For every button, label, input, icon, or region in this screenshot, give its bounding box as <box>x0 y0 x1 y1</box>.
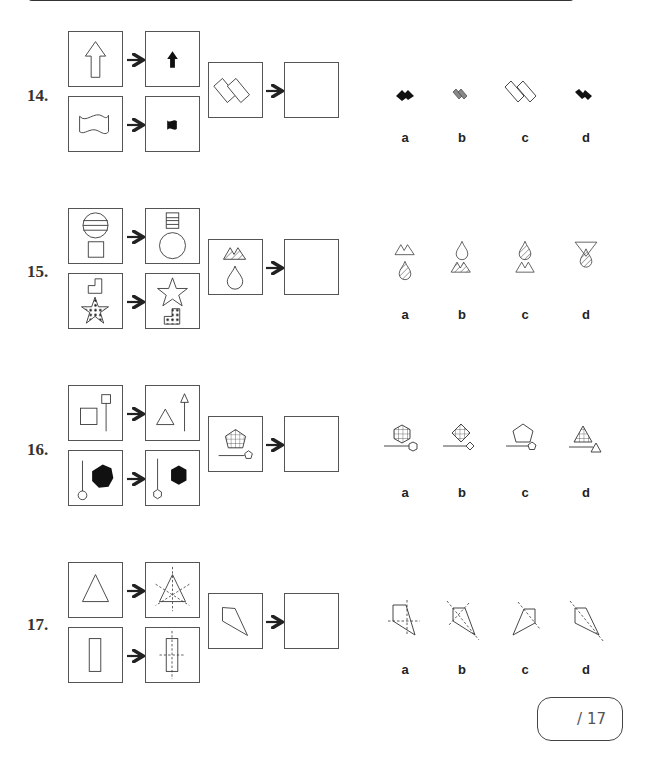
option-d-label[interactable]: d <box>576 485 596 500</box>
star-dotted-lshape-icon <box>146 274 199 328</box>
transform-arrow-icon <box>264 84 284 98</box>
option-a-label[interactable]: a <box>395 307 415 322</box>
option-d-figure[interactable] <box>561 420 611 470</box>
option-b-figure[interactable] <box>437 70 487 120</box>
transform-arrow-icon <box>125 649 145 663</box>
kite-cross-lines-icon <box>380 595 430 645</box>
outline-arrow-up-icon <box>69 32 122 86</box>
black-rectangles-icon <box>380 70 430 120</box>
example-1-from <box>68 562 123 618</box>
answer-box[interactable] <box>284 62 339 118</box>
transform-arrow-icon <box>125 472 145 486</box>
example-1-from <box>68 31 123 87</box>
example-1-to <box>145 562 200 618</box>
triangle-line-triangle-icon <box>146 386 199 440</box>
question-figure <box>208 416 263 472</box>
option-c-label[interactable]: c <box>515 130 535 145</box>
striped-drop-mountains-icon <box>500 238 550 288</box>
question-figure <box>208 593 263 649</box>
option-b-figure[interactable] <box>437 238 487 288</box>
striped-square-circle-icon <box>146 209 199 263</box>
option-b-label[interactable]: b <box>452 307 472 322</box>
example-2-from <box>68 450 123 506</box>
example-2-to <box>145 273 200 329</box>
rectangle-icon <box>69 628 122 682</box>
triangle-striped-drop-icon <box>561 238 611 288</box>
striped-circle-square-icon <box>69 209 122 263</box>
grid-hexagon-line-hexagon-icon <box>380 420 430 470</box>
grid-diamond-line-diamond-icon <box>437 420 487 470</box>
option-c-label[interactable]: c <box>515 485 535 500</box>
grey-rectangles-icon <box>437 70 487 120</box>
transform-arrow-icon <box>264 438 284 452</box>
rotated-kite-diagonal-icon <box>500 595 550 645</box>
striped-mountains-drop-icon <box>209 240 262 294</box>
outline-flag-icon <box>69 97 122 151</box>
overlapping-rectangles-icon <box>209 63 262 117</box>
option-a-figure[interactable] <box>380 420 430 470</box>
option-a-figure[interactable] <box>380 70 430 120</box>
rectangle-symmetry-lines-icon <box>146 628 199 682</box>
kite-diagonal-symmetry-icon <box>561 595 611 645</box>
option-c-figure[interactable] <box>500 420 550 470</box>
transform-arrow-icon <box>125 295 145 309</box>
option-d-figure[interactable] <box>561 238 611 288</box>
example-2-to <box>145 96 200 152</box>
example-2-from <box>68 96 123 152</box>
option-d-label[interactable]: d <box>576 662 596 677</box>
black-rectangles-icon <box>561 70 611 120</box>
line-hexagon-black-hexagon-icon <box>146 451 199 505</box>
lshape-dotted-star-icon <box>69 274 122 328</box>
option-c-figure[interactable] <box>500 595 550 645</box>
example-2-from <box>68 273 123 329</box>
option-c-label[interactable]: c <box>515 307 535 322</box>
option-a-figure[interactable] <box>380 595 430 645</box>
transform-arrow-icon <box>264 261 284 275</box>
example-1-from <box>68 208 123 264</box>
grid-pentagon-line-pentagon-icon <box>209 417 262 471</box>
option-a-label[interactable]: a <box>395 485 415 500</box>
example-1-to <box>145 385 200 441</box>
option-d-label[interactable]: d <box>576 307 596 322</box>
option-a-figure[interactable] <box>380 238 430 288</box>
kite-diagonal-perpendicular-icon <box>437 595 487 645</box>
question-figure <box>208 239 263 295</box>
pentagon-line-pentagon-icon <box>500 420 550 470</box>
kite-icon <box>209 594 262 648</box>
example-2-to <box>145 450 200 506</box>
option-d-figure[interactable] <box>561 70 611 120</box>
option-a-label[interactable]: a <box>395 130 415 145</box>
option-a-label[interactable]: a <box>395 662 415 677</box>
triangle-symmetry-lines-icon <box>146 563 199 617</box>
option-c-label[interactable]: c <box>515 662 535 677</box>
option-b-label[interactable]: b <box>452 485 472 500</box>
score-box[interactable]: / 17 <box>537 697 623 741</box>
option-b-figure[interactable] <box>437 595 487 645</box>
option-d-label[interactable]: d <box>576 130 596 145</box>
question-figure <box>208 62 263 118</box>
example-1-to <box>145 208 200 264</box>
option-b-label[interactable]: b <box>452 130 472 145</box>
answer-box[interactable] <box>284 416 339 472</box>
answer-box[interactable] <box>284 239 339 295</box>
transform-arrow-icon <box>125 584 145 598</box>
question-number: 15. <box>27 262 48 282</box>
answer-box[interactable] <box>284 593 339 649</box>
option-b-figure[interactable] <box>437 420 487 470</box>
top-rule <box>28 0 574 1</box>
triangle-icon <box>69 563 122 617</box>
transform-arrow-icon <box>125 53 145 67</box>
outline-rectangles-icon <box>500 70 550 120</box>
black-flag-icon <box>146 97 199 151</box>
option-c-figure[interactable] <box>500 70 550 120</box>
example-1-to <box>145 31 200 87</box>
transform-arrow-icon <box>125 230 145 244</box>
transform-arrow-icon <box>125 407 145 421</box>
transform-arrow-icon <box>125 118 145 132</box>
option-d-figure[interactable] <box>561 595 611 645</box>
mountains-striped-drop-icon <box>380 238 430 288</box>
option-c-figure[interactable] <box>500 238 550 288</box>
example-1-from <box>68 385 123 441</box>
square-line-square-icon <box>69 386 122 440</box>
option-b-label[interactable]: b <box>452 662 472 677</box>
